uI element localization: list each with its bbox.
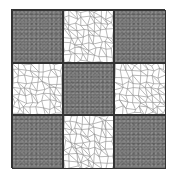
- net-pattern-icon: [115, 64, 165, 114]
- checkerboard-texture-grid: [11, 9, 165, 168]
- light-net-cell: [12, 63, 63, 115]
- dark-texture-cell: [12, 115, 63, 169]
- light-net-cell: [114, 63, 166, 115]
- light-net-cell: [63, 10, 114, 63]
- dark-texture-cell: [12, 10, 63, 63]
- dark-texture-cell: [63, 63, 114, 115]
- net-pattern-icon: [64, 11, 113, 62]
- net-pattern-icon: [64, 116, 113, 168]
- dark-texture-cell: [114, 10, 166, 63]
- dark-texture-cell: [114, 115, 166, 169]
- net-pattern-icon: [13, 64, 62, 114]
- light-net-cell: [63, 115, 114, 169]
